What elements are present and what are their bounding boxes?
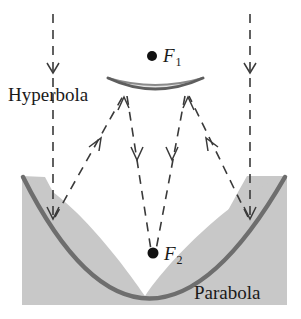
focus-label-f1-subscript: 1 bbox=[176, 55, 182, 69]
focus-label-f2: F2 bbox=[164, 243, 182, 265]
converging-ray-left bbox=[127, 96, 151, 250]
arrowhead-down-converging-right bbox=[166, 147, 178, 160]
parabola-label: Parabola bbox=[194, 283, 260, 302]
optics-diagram: Hyperbola Parabola F1 F2 bbox=[0, 0, 301, 319]
reflected-ray-left bbox=[55, 96, 123, 217]
focus-point-f1 bbox=[147, 51, 157, 61]
focus-label-f1-letter: F bbox=[163, 45, 175, 66]
converging-ray-right bbox=[156, 96, 185, 250]
focus-label-f1: F1 bbox=[163, 45, 181, 67]
reflected-ray-right bbox=[189, 96, 248, 217]
hyperbola-label: Hyperbola bbox=[8, 85, 88, 104]
focus-label-f2-subscript: 2 bbox=[177, 253, 183, 267]
focus-point-f2 bbox=[148, 248, 159, 259]
hyperbola-mirror bbox=[108, 78, 203, 89]
focus-label-f2-letter: F bbox=[164, 243, 176, 264]
arrowhead-down-converging-left bbox=[131, 147, 143, 160]
diagram-canvas bbox=[0, 0, 301, 319]
